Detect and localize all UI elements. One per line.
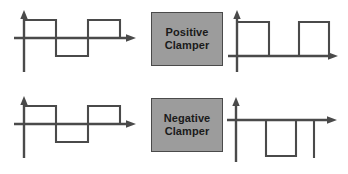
block-negative-clamper[interactable]: Negative Clamper — [151, 98, 223, 152]
waveform-bottom-input-svg — [10, 94, 140, 160]
waveform-top-output-svg — [225, 8, 345, 74]
block-negative-clamper-line1: Negative — [164, 112, 211, 125]
x-axis-top-input — [14, 34, 136, 42]
block-positive-clamper-line1: Positive — [166, 26, 209, 39]
block-positive-clamper[interactable]: Positive Clamper — [151, 12, 223, 66]
x-axis-bottom-input — [14, 120, 136, 128]
waveform-top-input-svg — [10, 8, 140, 74]
waveform-bottom-input — [10, 94, 140, 160]
waveform-top-input — [10, 8, 140, 74]
waveform-top-output — [225, 8, 345, 74]
waveform-bottom-output — [222, 94, 348, 166]
y-axis-top-output — [233, 10, 240, 72]
waveform-bottom-output-svg — [222, 94, 348, 166]
signal-trace-bottom-output — [236, 120, 314, 156]
clamper-diagram: Positive Clamper — [0, 0, 348, 174]
y-axis-bottom-output — [232, 97, 239, 162]
signal-trace-top-output — [237, 22, 329, 56]
block-positive-clamper-line2: Clamper — [165, 39, 210, 52]
block-negative-clamper-line2: Clamper — [165, 125, 210, 138]
